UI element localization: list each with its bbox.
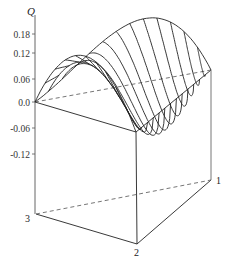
surface-edge-3-1 bbox=[35, 18, 211, 102]
surface-hatch-line bbox=[65, 60, 79, 62]
zero-plane-edge-3-2 bbox=[35, 102, 136, 132]
q-axis-tick-label: 0.18 bbox=[13, 30, 30, 40]
surface-cross-section-curve bbox=[76, 60, 154, 134]
q-axis-ticks: 0.180.120.060.0-0.06-0.12 bbox=[10, 30, 35, 160]
front-vertical-edge-2 bbox=[136, 132, 137, 244]
surface-cross-section-curve bbox=[62, 64, 147, 132]
base-edge-2-1 bbox=[137, 180, 211, 244]
vertex-label-2: 2 bbox=[134, 247, 139, 258]
surface-curves bbox=[35, 18, 211, 136]
surface-hatch-line bbox=[96, 62, 110, 83]
q-axis-title: Q bbox=[27, 5, 35, 17]
q-axis-tick-label: 0.12 bbox=[13, 49, 30, 59]
base-edge-3-2 bbox=[36, 214, 137, 244]
ternary-surface-plot: 0.180.120.060.0-0.06-0.12 Q 3 2 1 bbox=[0, 0, 234, 262]
q-axis-tick-label: 0.06 bbox=[13, 75, 30, 85]
surface-cross-section-curve bbox=[130, 24, 177, 125]
base-edge-3-1-dashed bbox=[36, 180, 211, 214]
q-axis-tick-label: -0.12 bbox=[10, 150, 30, 160]
prism-frame bbox=[35, 15, 211, 244]
vertex-label-1: 1 bbox=[216, 175, 221, 186]
q-axis-tick-label: 0.0 bbox=[18, 98, 30, 108]
surface-cross-section-curve bbox=[170, 22, 193, 96]
vertex-label-3: 3 bbox=[25, 213, 30, 224]
q-axis-tick-label: -0.06 bbox=[10, 124, 30, 134]
